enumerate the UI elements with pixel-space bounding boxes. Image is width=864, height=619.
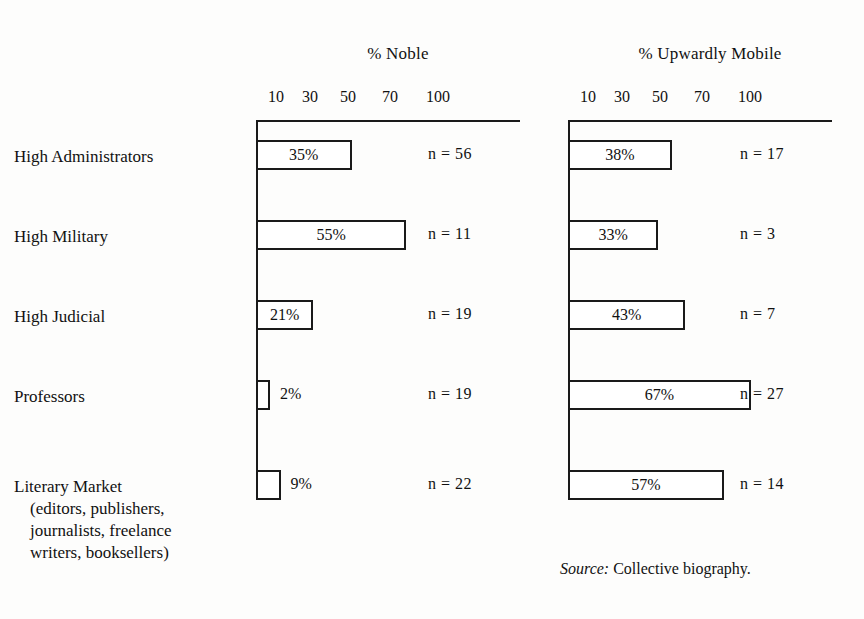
x-tick-label: 100 <box>738 88 762 106</box>
panel-title-0: % Noble <box>266 44 530 64</box>
bar-value-label: 38% <box>570 142 670 168</box>
chart-figure: High AdministratorsHigh MilitaryHigh Jud… <box>0 0 864 619</box>
category-label-line: High Administrators <box>14 147 153 166</box>
n-value-label: n = 27 <box>740 385 784 403</box>
x-tick-label: 70 <box>694 88 710 106</box>
category-label-line: High Judicial <box>14 307 105 326</box>
bar-0-3 <box>256 380 270 410</box>
category-label-4: Literary Market(editors, publishers,jour… <box>14 476 172 564</box>
category-label-line: Professors <box>14 387 85 406</box>
bar-1-2: 43% <box>568 300 685 330</box>
x-axis-line-0 <box>256 120 520 122</box>
category-label-1: High Military <box>14 226 108 248</box>
n-value-label: n = 17 <box>740 145 784 163</box>
n-value-label: n = 3 <box>740 225 776 243</box>
bar-1-1: 33% <box>568 220 658 250</box>
category-label-line: (editors, publishers, <box>14 498 172 520</box>
x-tick-label: 50 <box>652 88 668 106</box>
n-value-label: n = 56 <box>428 145 472 163</box>
bar-value-label: 35% <box>258 142 350 168</box>
bar-1-0: 38% <box>568 140 672 170</box>
n-value-label: n = 19 <box>428 385 472 403</box>
category-label-line: High Military <box>14 227 108 246</box>
source-note: Source: Collective biography. <box>560 560 751 578</box>
n-value-label: n = 14 <box>740 475 784 493</box>
bar-value-label: 55% <box>258 222 404 248</box>
category-label-3: Professors <box>14 386 85 408</box>
bar-value-label: 33% <box>570 222 656 248</box>
bar-0-0: 35% <box>256 140 352 170</box>
category-label-line: writers, booksellers) <box>14 542 172 564</box>
x-tick-label: 30 <box>614 88 630 106</box>
category-label-2: High Judicial <box>14 306 105 328</box>
source-label: Source: <box>560 560 609 577</box>
n-value-label: n = 19 <box>428 305 472 323</box>
bar-1-4: 57% <box>568 470 724 500</box>
n-value-label: n = 22 <box>428 475 472 493</box>
bar-value-label: 21% <box>258 302 311 328</box>
bar-0-2: 21% <box>256 300 313 330</box>
x-axis-line-1 <box>568 120 832 122</box>
bar-value-label: 2% <box>280 385 301 403</box>
panel-title-1: % Upwardly Mobile <box>578 44 842 64</box>
bar-0-1: 55% <box>256 220 406 250</box>
category-label-0: High Administrators <box>14 146 153 168</box>
n-value-label: n = 11 <box>428 225 471 243</box>
bar-value-label: 9% <box>291 475 312 493</box>
category-label-line: Literary Market <box>14 477 122 496</box>
x-axis-ticks-1: 10305070100 <box>0 88 864 108</box>
source-text: Collective biography. <box>613 560 751 577</box>
bar-value-label: 57% <box>570 472 722 498</box>
category-label-line: journalists, freelance <box>14 520 172 542</box>
bar-0-4 <box>256 470 281 500</box>
bar-value-label: 67% <box>570 382 749 408</box>
n-value-label: n = 7 <box>740 305 776 323</box>
bar-value-label: 43% <box>570 302 683 328</box>
bar-1-3: 67% <box>568 380 751 410</box>
x-tick-label: 10 <box>580 88 596 106</box>
